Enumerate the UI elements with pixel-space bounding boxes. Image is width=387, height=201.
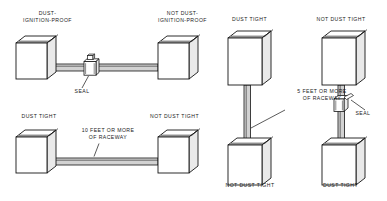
panel-2-raceway-leader (94, 144, 99, 157)
panel-3-bottom-enclosure (228, 137, 273, 185)
panel-2-right-enclosure (158, 129, 200, 173)
panel-1-conduit-right (96, 64, 158, 71)
panel-2-left-enclosure (16, 129, 58, 173)
panel-2-raceway-label: 10 FEET OR MORE OF RACEWAY (63, 127, 152, 141)
panel-2-left-box-label: DUST TIGHT (5, 113, 73, 120)
panel-4-bottom-enclosure (322, 137, 367, 185)
panel-2-conduit (52, 158, 158, 165)
panel-3-conduit (244, 85, 251, 145)
panel-3-top-enclosure (228, 30, 273, 85)
panel-3-bottom-box-label: NOT DUST TIGHT (206, 182, 293, 189)
panel-4-artwork (322, 30, 367, 185)
panel-1-conduit-left (52, 64, 85, 71)
panel-1-left-box-label: DUST- IGNITION-PROOF (1, 10, 93, 24)
panel-1-seal-fitting (84, 54, 99, 75)
panel-3-raceway-label: 5 FEET OR MORE OF RACEWAY (279, 88, 364, 102)
panel-1-seal-label: SEAL (58, 88, 107, 95)
panel-2-right-box-label: NOT DUST TIGHT (138, 113, 211, 120)
panel-1-left-enclosure (16, 35, 58, 79)
panel-1-seal-leader (82, 76, 89, 88)
panel-3-top-box-label: DUST TIGHT (213, 16, 286, 23)
panel-1-right-enclosure (158, 35, 200, 79)
panel-1-artwork (16, 35, 200, 88)
panel-4-seal-label: SEAL (355, 110, 384, 117)
panel-4-top-box-label: NOT DUST TIGHT (302, 16, 380, 23)
panel-3-raceway-leader (251, 110, 285, 128)
diagram-canvas: DUST- IGNITION-PROOF NOT DUST- IGNITION-… (0, 0, 387, 201)
panel-4-bottom-box-label: DUST TIGHT (304, 182, 377, 189)
panel-4-top-enclosure (322, 30, 367, 85)
panel-3-artwork (228, 30, 285, 185)
